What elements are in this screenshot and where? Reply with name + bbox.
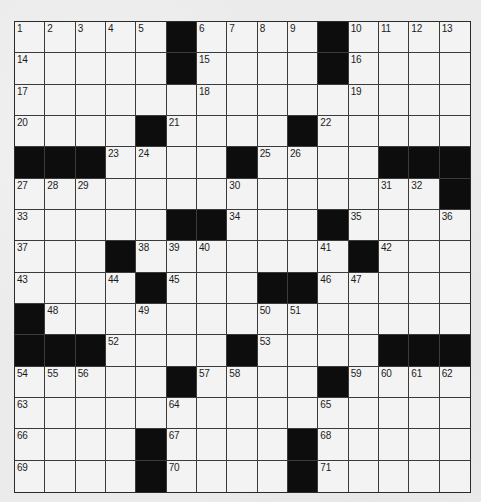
grid-cell[interactable] [106,85,136,116]
grid-cell[interactable] [440,461,470,492]
grid-cell[interactable] [76,398,106,429]
grid-cell[interactable]: 48 [45,304,75,335]
grid-cell[interactable]: 25 [258,147,288,178]
grid-cell[interactable]: 71 [318,461,348,492]
grid-cell[interactable] [136,85,166,116]
grid-cell[interactable]: 42 [379,241,409,272]
grid-cell[interactable] [440,53,470,84]
grid-cell[interactable] [258,116,288,147]
grid-cell[interactable] [45,210,75,241]
grid-cell[interactable]: 68 [318,429,348,460]
grid-cell[interactable] [379,461,409,492]
grid-cell[interactable]: 31 [379,179,409,210]
grid-cell[interactable] [379,304,409,335]
grid-cell[interactable]: 29 [76,179,106,210]
grid-cell[interactable] [318,85,348,116]
grid-cell[interactable] [106,429,136,460]
grid-cell[interactable]: 41 [318,241,348,272]
grid-cell[interactable]: 28 [45,179,75,210]
grid-cell[interactable] [349,304,379,335]
grid-cell[interactable]: 66 [15,429,45,460]
grid-cell[interactable]: 59 [349,367,379,398]
grid-cell[interactable] [318,147,348,178]
grid-cell[interactable] [379,85,409,116]
grid-cell[interactable]: 53 [258,335,288,366]
grid-cell[interactable] [288,367,318,398]
grid-cell[interactable] [349,429,379,460]
grid-cell[interactable]: 32 [409,179,439,210]
grid-cell[interactable] [258,461,288,492]
grid-cell[interactable]: 10 [349,22,379,53]
grid-cell[interactable] [197,147,227,178]
grid-cell[interactable]: 47 [349,273,379,304]
grid-cell[interactable]: 45 [167,273,197,304]
grid-cell[interactable] [136,367,166,398]
grid-cell[interactable] [258,210,288,241]
grid-cell[interactable] [288,241,318,272]
grid-cell[interactable] [288,53,318,84]
grid-cell[interactable] [167,335,197,366]
grid-cell[interactable] [136,179,166,210]
grid-cell[interactable] [197,179,227,210]
grid-cell[interactable]: 58 [227,367,257,398]
grid-cell[interactable] [106,461,136,492]
grid-cell[interactable] [76,53,106,84]
grid-cell[interactable] [45,241,75,272]
grid-cell[interactable] [76,304,106,335]
grid-cell[interactable] [379,429,409,460]
grid-cell[interactable] [227,461,257,492]
grid-cell[interactable] [379,210,409,241]
grid-cell[interactable]: 11 [379,22,409,53]
grid-cell[interactable]: 30 [227,179,257,210]
grid-cell[interactable] [227,85,257,116]
grid-cell[interactable] [227,241,257,272]
grid-cell[interactable] [76,429,106,460]
grid-cell[interactable] [227,273,257,304]
grid-cell[interactable]: 67 [167,429,197,460]
grid-cell[interactable] [227,116,257,147]
grid-cell[interactable]: 22 [318,116,348,147]
grid-cell[interactable]: 12 [409,22,439,53]
grid-cell[interactable]: 4 [106,22,136,53]
grid-cell[interactable] [409,210,439,241]
grid-cell[interactable] [106,116,136,147]
grid-cell[interactable] [197,429,227,460]
grid-cell[interactable] [76,116,106,147]
grid-cell[interactable] [197,304,227,335]
grid-cell[interactable]: 2 [45,22,75,53]
grid-cell[interactable] [349,461,379,492]
grid-cell[interactable]: 1 [15,22,45,53]
grid-cell[interactable]: 61 [409,367,439,398]
grid-cell[interactable] [379,53,409,84]
grid-cell[interactable] [197,116,227,147]
grid-cell[interactable] [258,429,288,460]
grid-cell[interactable]: 55 [45,367,75,398]
grid-cell[interactable]: 70 [167,461,197,492]
grid-cell[interactable] [76,210,106,241]
grid-cell[interactable] [318,179,348,210]
grid-cell[interactable]: 23 [106,147,136,178]
grid-cell[interactable]: 54 [15,367,45,398]
grid-cell[interactable] [106,398,136,429]
grid-cell[interactable] [258,398,288,429]
grid-cell[interactable]: 49 [136,304,166,335]
grid-cell[interactable] [76,241,106,272]
grid-cell[interactable] [258,241,288,272]
grid-cell[interactable] [45,53,75,84]
grid-cell[interactable] [409,241,439,272]
grid-cell[interactable] [379,398,409,429]
grid-cell[interactable] [379,273,409,304]
grid-cell[interactable] [45,398,75,429]
grid-cell[interactable]: 63 [15,398,45,429]
grid-cell[interactable]: 69 [15,461,45,492]
grid-cell[interactable] [76,273,106,304]
grid-cell[interactable] [440,85,470,116]
grid-cell[interactable] [45,429,75,460]
grid-cell[interactable]: 33 [15,210,45,241]
grid-cell[interactable] [349,116,379,147]
grid-cell[interactable]: 20 [15,116,45,147]
grid-cell[interactable] [167,147,197,178]
grid-cell[interactable] [197,335,227,366]
grid-cell[interactable] [167,179,197,210]
grid-cell[interactable]: 51 [288,304,318,335]
